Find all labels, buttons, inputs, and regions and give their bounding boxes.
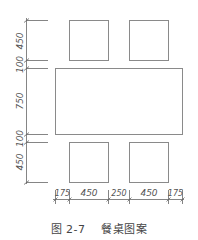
dim-v-3: 100 [15,130,25,147]
dim-v-4: 450 [15,153,25,170]
dim-h-4: 175 [168,189,183,198]
figure-title: 餐桌图案 [101,220,147,236]
chair-bottom-left [70,143,109,183]
dim-v-0: 450 [15,32,25,49]
vertical-dimension [24,18,48,185]
dim-h-3: 450 [140,188,157,198]
figure-caption: 图 2-7 餐桌图案 [0,220,198,236]
table [56,69,183,135]
dim-v-1: 100 [15,56,25,73]
dim-h-2: 250 [111,189,126,198]
horizontal-dimension-labels: 175 450 250 450 175 [55,188,183,198]
chair-bottom-right [130,143,169,183]
dim-h-0: 175 [55,189,70,198]
vertical-dimension-labels: 450 100 750 100 450 [15,32,25,170]
figure-number: 图 2-7 [51,220,86,236]
dining-table-drawing: 450 100 750 100 450 175 450 250 450 175 [0,0,198,240]
chair-top-left [70,21,109,61]
chair-top-right [130,21,169,61]
dim-h-1: 450 [80,188,97,198]
dim-v-2: 750 [15,92,25,109]
